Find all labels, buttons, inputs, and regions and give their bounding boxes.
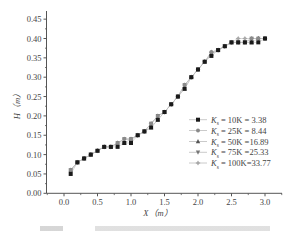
square-marker-icon [142,129,146,133]
figure-caption-cutoff [40,225,270,231]
x-tick-label: 0.5 [92,197,103,207]
square-marker-icon [163,110,167,114]
y-tick-label: 0.25 [27,92,42,102]
square-marker-icon [122,141,126,145]
square-marker-icon [183,87,187,91]
square-marker-icon [236,40,240,44]
square-marker-icon [169,102,173,106]
circle-marker-icon [122,137,126,141]
square-marker-icon [196,67,200,71]
y-tick-label: 0.10 [27,150,42,160]
y-tick-label: 0.35 [27,53,42,63]
line-chart: 0.000.050.100.150.200.250.300.350.400.45… [0,0,294,231]
square-marker-icon [69,172,73,176]
legend-item: Ks = 100K=33.77 [189,158,271,170]
x-tick-label: 3.0 [260,197,271,207]
legend-label: Ks = 50K =16.89 [210,137,269,149]
y-tick-label: 0.05 [27,169,42,179]
x-tick-label: 1.5 [159,197,170,207]
circle-marker-icon [183,83,187,87]
square-marker-icon [109,145,113,149]
circle-marker-icon [69,168,73,172]
y-tick-label: 0.15 [27,130,42,140]
square-marker-icon [230,40,234,44]
square-marker-icon [102,145,106,149]
star-marker-icon [195,160,200,165]
square-marker-icon [96,149,100,153]
legend-item: Ks = 50K =16.89 [189,137,269,149]
legend-item: Ks = 10K = 3.38 [189,115,266,127]
circle-marker-icon [129,137,133,141]
square-marker-icon [129,141,133,145]
square-marker-icon [250,40,254,44]
caption-illegible-text [40,226,270,231]
x-tick-label: 0.0 [59,197,70,207]
circle-marker-icon [149,122,153,126]
x-axis-title: X（m） [142,208,172,218]
y-tick-label: 0.00 [27,188,42,198]
square-marker-icon [216,48,220,52]
y-tick-label: 0.45 [27,14,42,24]
circle-marker-icon [156,114,160,118]
legend-label: Ks = 25K = 8.44 [210,126,267,138]
square-marker-icon [243,40,247,44]
circle-marker-icon [250,37,254,41]
square-marker-icon [116,145,120,149]
square-marker-icon [223,44,227,48]
legend: Ks = 10K = 3.38Ks = 25K = 8.44Ks = 50K =… [189,115,271,170]
legend-label: Ks = 100K=33.77 [210,158,271,170]
square-marker-icon [209,54,213,58]
square-marker-icon [189,75,193,79]
square-marker-icon [75,160,79,164]
legend-label: Ks = 10K = 3.38 [210,115,266,127]
y-tick-label: 0.30 [27,72,42,82]
circle-marker-icon [196,129,200,133]
square-marker-icon [136,133,140,137]
square-marker-icon [196,118,200,122]
y-tick-label: 0.40 [27,34,42,44]
square-marker-icon [89,153,93,157]
x-tick-label: 1.0 [126,197,137,207]
y-axis-title: H（m） [12,89,22,120]
square-marker-icon [82,156,86,160]
x-tick-label: 2.0 [193,197,204,207]
x-tick-label: 2.5 [226,197,237,207]
legend-item: Ks = 25K = 8.44 [189,126,267,138]
square-marker-icon [256,40,260,44]
square-marker-icon [176,95,180,99]
square-marker-icon [156,118,160,122]
y-tick-label: 0.20 [27,111,42,121]
square-marker-icon [203,60,207,64]
square-marker-icon [263,37,267,41]
circle-marker-icon [116,141,120,145]
circle-marker-icon [209,50,213,54]
square-marker-icon [149,126,153,130]
circle-marker-icon [256,37,260,41]
